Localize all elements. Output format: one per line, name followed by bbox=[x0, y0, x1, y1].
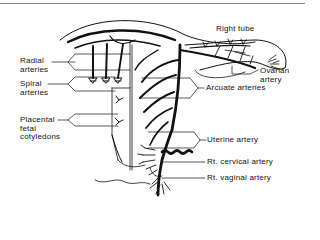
cervix-branches bbox=[138, 145, 157, 175]
label-radial-arteries: Radial arteries bbox=[20, 57, 48, 74]
label-right-tube: Right tube bbox=[216, 25, 254, 34]
uterine-artery-trunk bbox=[158, 45, 180, 195]
label-rt-cervical-artery: Rt. cervical artery bbox=[207, 158, 273, 167]
vaginal-wall bbox=[95, 180, 150, 184]
arcuate-branch bbox=[142, 60, 178, 82]
label-placental-line3: cotyledons bbox=[20, 133, 60, 142]
label-radial-line2: arteries bbox=[20, 66, 48, 75]
label-spiral-arteries: Spiral arteries bbox=[20, 80, 48, 97]
leader-radial bbox=[52, 54, 130, 70]
label-uterine-artery: Uterine artery bbox=[207, 136, 258, 145]
leader-placental bbox=[58, 114, 118, 126]
label-ovarian-artery: Ovarian artery bbox=[260, 67, 289, 84]
label-arcuate-arteries: Arcuate arteries bbox=[206, 84, 266, 93]
cotyledon bbox=[115, 96, 123, 125]
rt-cervical-artery-vessel bbox=[162, 151, 192, 154]
leader-spiral bbox=[48, 77, 115, 91]
label-rt-vaginal-artery: Rt. vaginal artery bbox=[207, 174, 271, 183]
label-spiral-line2: arteries bbox=[20, 89, 48, 98]
label-placental-fetal-cotyledons: Placental fetal cotyledons bbox=[20, 116, 60, 142]
